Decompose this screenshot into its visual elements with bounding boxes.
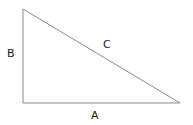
- side-label-a: A: [91, 109, 99, 122]
- side-label-c: C: [103, 38, 111, 51]
- triangle-shape: [23, 9, 180, 103]
- right-triangle-diagram: B C A: [0, 0, 193, 125]
- side-label-b: B: [7, 47, 15, 60]
